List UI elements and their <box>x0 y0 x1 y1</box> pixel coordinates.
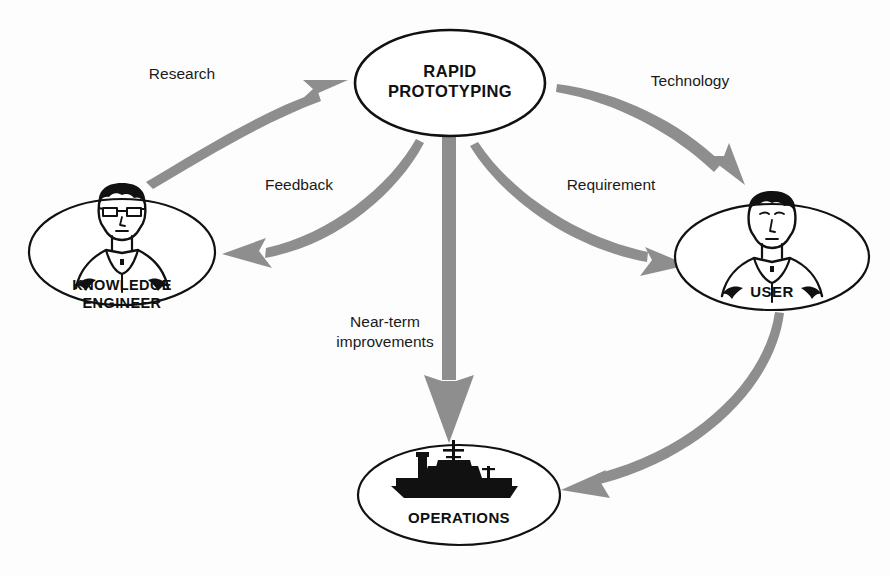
diagram-canvas: RAPID PROTOTYPING <box>0 0 890 576</box>
near-term-arrow-icon <box>442 137 456 380</box>
edge-label-near-term-line1: Near-term <box>350 313 420 330</box>
edge-research[interactable] <box>146 80 348 189</box>
edge-technology[interactable] <box>556 84 745 185</box>
operations-label: OPERATIONS <box>408 509 510 526</box>
edge-feedback[interactable] <box>222 139 424 268</box>
user-operations-arrow-icon <box>597 312 784 484</box>
requirement-arrow-icon <box>470 142 648 262</box>
node-knowledge-engineer[interactable]: KNOWLEDGE ENGINEER <box>29 183 215 311</box>
feedback-arrowhead-icon <box>222 238 272 268</box>
edge-user-to-operations[interactable] <box>561 312 784 498</box>
research-arrow-icon <box>146 92 321 189</box>
knowledge-engineer-label-line1: KNOWLEDGE <box>72 277 171 293</box>
knowledge-engineer-label-line2: ENGINEER <box>83 295 162 311</box>
technology-arrow-icon <box>556 84 722 172</box>
edge-label-research: Research <box>149 65 215 82</box>
node-user[interactable]: USER <box>675 191 869 310</box>
feedback-arrow-icon <box>265 139 424 258</box>
node-rapid-prototyping[interactable]: RAPID PROTOTYPING <box>355 30 545 136</box>
near-term-arrowhead-icon <box>424 375 474 443</box>
edge-near-term-improvements[interactable] <box>424 137 474 443</box>
edge-label-near-term-line2: improvements <box>336 333 434 350</box>
edge-label-requirement: Requirement <box>567 176 656 193</box>
user-label: USER <box>750 283 793 300</box>
rapid-prototyping-label-line1: RAPID <box>423 62 476 80</box>
rapid-prototyping-label-line2: PROTOTYPING <box>388 82 512 100</box>
user-operations-arrowhead-icon <box>561 470 610 498</box>
diagram-svg: RAPID PROTOTYPING <box>0 0 890 576</box>
edge-label-technology: Technology <box>651 72 730 89</box>
edge-label-feedback: Feedback <box>265 176 333 193</box>
edge-requirement[interactable] <box>470 142 688 276</box>
node-operations[interactable]: OPERATIONS <box>358 440 560 545</box>
